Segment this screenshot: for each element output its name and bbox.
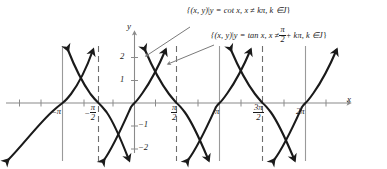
cot-annotation-leader [146,27,190,56]
x-tick-label-three-pi-over2: 3π2 [253,104,264,123]
y-tick-label-neg-1: −1 [138,119,148,129]
cot-body: y = cot x, x ≠ kπ, k ∈ [210,6,283,15]
x-tick-value-neg-pi: π [57,106,61,116]
tan-set-annotation: {(x, y)|y = tan x, x ≠π2+ kπ, k ∈J} [211,27,327,45]
fraction-neg-pi-over-2: π2 [90,103,96,122]
x-tick-label-neg-pi: −π [52,106,61,117]
x-tick-label-neg-pi-over2: −π2 [85,104,96,123]
tan-close-brace: } [323,31,327,40]
tan-fraction-numerator: π [279,26,285,34]
y-axis-label: y [127,21,131,31]
fraction-denominator: 2 [90,112,96,122]
tan-body-b: + kπ, k ∈ [286,31,319,40]
x-axis-label: x [347,94,351,104]
y-tick-label-2: 2 [120,51,124,61]
cot-close-brace: } [286,6,290,15]
fraction-denominator: 2 [253,112,264,122]
cot-open-brace: {(x, y) [187,6,208,15]
y-tick-label-neg-2: −2 [138,142,148,152]
tan-fraction-pi-over-2: π2 [279,26,285,44]
fraction-numerator: π [90,103,96,112]
fraction-numerator: π [171,103,177,112]
tan-annotation-leader [168,45,214,64]
y-tick-label-1: 1 [120,74,124,84]
x-tick-label-pi: π [215,106,219,116]
x-tick-label-pi-over2: π2 [171,104,177,123]
tan-open-brace: {(x, y) [211,31,232,40]
tangent-cotangent-graph-figure: x y {(x, y)|y = cot x, x ≠ kπ, k ∈J} {(x… [0,0,387,169]
tan-fraction-denominator: 2 [279,35,285,45]
tan-body-a: y = tan x, x ≠ [234,31,280,40]
fraction-pi-over-2: π2 [171,103,177,122]
graph-canvas [0,0,387,169]
fraction-numerator: 3π [253,103,264,112]
fraction-denominator: 2 [171,112,177,122]
fraction-three-pi-over-2: 3π2 [253,103,264,122]
cot-set-annotation: {(x, y)|y = cot x, x ≠ kπ, k ∈J} [187,5,291,15]
tan-branch-neg-one [8,50,93,160]
x-tick-label-two-pi: 2π [296,106,305,116]
